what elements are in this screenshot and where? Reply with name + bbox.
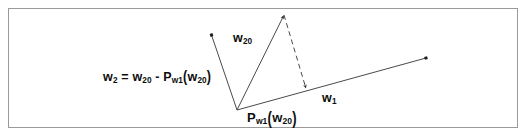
- w20-base: w: [233, 31, 243, 45]
- perpendicular-dashed-line: [284, 15, 305, 87]
- vector-projection-figure: w2 = w20 - Pw1(w20) w20 Pw1(w20) w1: [0, 0, 529, 139]
- projection-open-paren: (: [268, 109, 273, 127]
- vector-w20-label: w20: [233, 32, 252, 45]
- projection-arg: w: [272, 110, 282, 125]
- w1-sub: 1: [332, 97, 337, 106]
- equation-open-paren: (: [183, 69, 187, 86]
- w20-sub: 20: [243, 37, 252, 46]
- equation-minus: -: [152, 70, 164, 84]
- vector-w2-line: [212, 35, 238, 110]
- projection-proj: P: [247, 110, 256, 125]
- w1-base: w: [322, 91, 332, 105]
- equation-close-paren: ): [207, 69, 211, 86]
- equation-equals: =: [118, 70, 133, 84]
- equation-label: w2 = w20 - Pw1(w20): [103, 71, 211, 84]
- equation-lead: w: [103, 70, 113, 84]
- equation-arg: w: [188, 70, 198, 84]
- vector-w1-label: w1: [322, 92, 337, 105]
- equation-proj: P: [163, 70, 172, 84]
- projection-close-paren: ): [292, 109, 297, 127]
- projection-label: Pw1(w20): [247, 111, 297, 124]
- projection-arg-sub: 20: [283, 116, 293, 126]
- projection-proj-sub: w1: [256, 116, 267, 126]
- vector-w20-line: [237, 17, 283, 110]
- equation-proj-sub: w1: [172, 76, 183, 85]
- equation-arg-sub: 20: [197, 76, 206, 85]
- equation-lead-sub: 2: [113, 76, 118, 85]
- equation-term1-sub: 20: [142, 76, 151, 85]
- equation-term1: w: [132, 70, 142, 84]
